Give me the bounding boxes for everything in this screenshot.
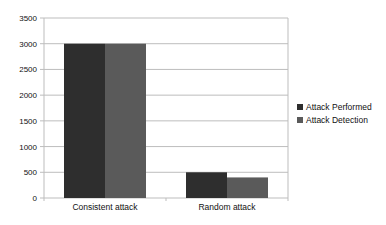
bar [64, 44, 105, 198]
legend-label: Attack Detection [306, 115, 368, 125]
legend-swatch-icon [297, 117, 303, 123]
y-tick-label: 0 [33, 194, 38, 203]
legend-swatch-icon [297, 104, 303, 110]
y-tick-label: 1500 [19, 117, 37, 126]
bar [227, 177, 268, 198]
x-category-label: Consistent attack [72, 202, 138, 212]
bar [186, 172, 227, 198]
y-tick-label: 500 [24, 168, 38, 177]
legend-item-attack-performed: Attack Performed [297, 100, 372, 113]
y-tick-label: 2000 [19, 91, 37, 100]
bar-chart: 0500100015002000250030003500Consistent a… [0, 0, 386, 225]
legend: Attack Performed Attack Detection [297, 100, 372, 126]
y-tick-label: 1000 [19, 143, 37, 152]
legend-item-attack-detection: Attack Detection [297, 113, 372, 126]
bar [105, 44, 146, 198]
y-tick-label: 3000 [19, 40, 37, 49]
y-tick-label: 2500 [19, 65, 37, 74]
y-tick-label: 3500 [19, 14, 37, 23]
x-category-label: Random attack [198, 202, 256, 212]
legend-label: Attack Performed [306, 102, 372, 112]
